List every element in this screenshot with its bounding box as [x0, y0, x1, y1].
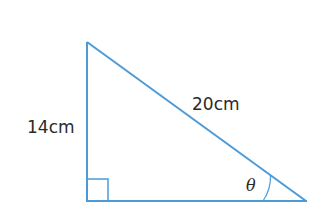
angle-arc — [263, 175, 271, 201]
angle-theta-label: θ — [246, 176, 256, 195]
hypotenuse — [87, 42, 306, 201]
hypotenuse-label: 20cm — [192, 94, 240, 114]
triangle — [86, 42, 307, 201]
right-triangle-diagram: 14cm 20cm θ — [0, 0, 333, 213]
vertical-side-label: 14cm — [27, 117, 75, 137]
right-angle-marker — [87, 179, 108, 201]
